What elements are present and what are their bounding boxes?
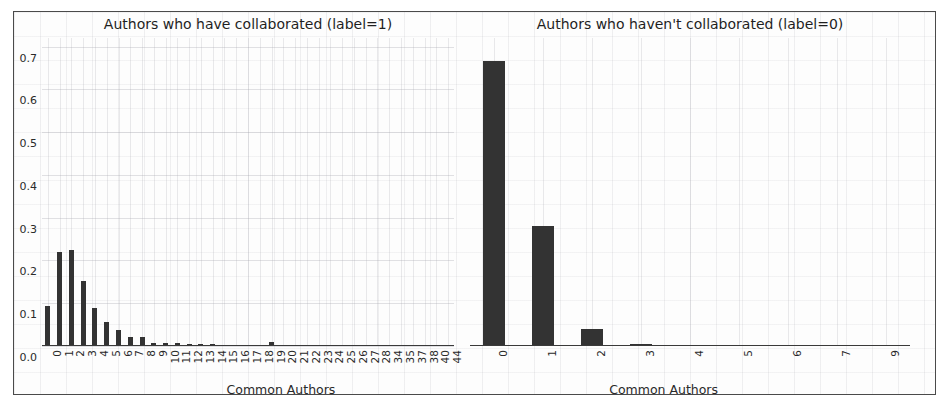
gridline-vertical xyxy=(377,38,378,346)
x-axis-tick-label: 19 xyxy=(276,350,287,363)
gridline-vertical xyxy=(739,38,740,346)
gridline-vertical xyxy=(448,38,449,346)
x-axis-tick-label: 40 xyxy=(440,350,451,363)
x-axis-tick-label: 21 xyxy=(299,350,310,363)
x-axis-tick-label: 7 xyxy=(134,350,145,357)
x-axis-tick-label: 20 xyxy=(287,350,298,363)
gridline-vertical xyxy=(413,38,414,346)
x-axis-tick-label: 13 xyxy=(205,350,216,363)
chart-title-right: Authors who haven't collaborated (label=… xyxy=(537,16,844,32)
y-axis-tick-label: 0.1 xyxy=(20,309,38,320)
gridline-vertical xyxy=(95,38,96,346)
x-axis-tick-label: 8 xyxy=(146,350,157,357)
x-axis-tick-label: 16 xyxy=(240,350,251,363)
bar xyxy=(69,250,74,346)
gridline-vertical xyxy=(788,38,789,346)
x-axis-tick-label: 3 xyxy=(645,350,656,357)
x-axis-tick-label: 27 xyxy=(370,350,381,363)
bar xyxy=(45,306,50,346)
x-axis-tick-label: 2 xyxy=(75,350,86,357)
x-axis-tick-label: 26 xyxy=(358,350,369,363)
gridline-vertical xyxy=(592,38,593,346)
bar xyxy=(532,226,554,346)
gridline-vertical xyxy=(130,38,131,346)
x-axis-tick-label: 12 xyxy=(193,350,204,363)
x-axis-tick-label: 5 xyxy=(111,350,122,357)
x-axis-line-left xyxy=(42,345,454,346)
gridline-vertical xyxy=(213,38,214,346)
gridline-vertical xyxy=(425,38,426,346)
x-axis-tick-label: 34 xyxy=(393,350,404,363)
x-axis-tick-label: 35 xyxy=(405,350,416,363)
y-axis-tick-label: 0.0 xyxy=(20,352,38,363)
x-axis-tick-label: 11 xyxy=(181,350,192,363)
x-axis-title-right: Common Authors xyxy=(609,382,718,397)
gridline-vertical xyxy=(295,38,296,346)
gridline-vertical xyxy=(48,38,49,346)
plot-area-right xyxy=(470,38,910,346)
gridline-vertical xyxy=(272,38,273,346)
x-axis-tick-label: 44 xyxy=(452,350,463,363)
x-axis-tick-label: 0 xyxy=(498,350,509,357)
x-axis-tick-label: 6 xyxy=(792,350,803,357)
gridline-vertical xyxy=(319,38,320,346)
x-axis-tick-label: 37 xyxy=(417,350,428,363)
gridline-vertical xyxy=(366,38,367,346)
plot-area-left xyxy=(42,38,454,346)
gridline-vertical xyxy=(119,38,120,346)
gridline-vertical xyxy=(401,38,402,346)
x-axis-tick-label: 22 xyxy=(311,350,322,363)
x-axis-tick-label: 6 xyxy=(123,350,134,357)
gridline-vertical xyxy=(260,38,261,346)
gridline-vertical xyxy=(342,38,343,346)
bar xyxy=(104,322,109,346)
gridline-vertical xyxy=(224,38,225,346)
x-axis-tick-label: 4 xyxy=(99,350,110,357)
gridline-vertical xyxy=(389,38,390,346)
gridline-vertical xyxy=(177,38,178,346)
gridline-vertical xyxy=(107,38,108,346)
chart-title-left: Authors who have collaborated (label=1) xyxy=(104,16,392,32)
gridline-vertical xyxy=(837,38,838,346)
bar xyxy=(57,252,62,346)
gridline-vertical xyxy=(142,38,143,346)
x-axis-tick-label: 28 xyxy=(381,350,392,363)
gridline-vertical xyxy=(690,38,691,346)
y-axis-tick-label: 0.4 xyxy=(20,180,38,191)
figure-frame: Authors who have collaborated (label=1) … xyxy=(13,11,936,395)
gridline-vertical xyxy=(307,38,308,346)
x-axis-tick-label: 5 xyxy=(743,350,754,357)
x-axis-tick-label: 1 xyxy=(64,350,75,357)
gridline-vertical xyxy=(166,38,167,346)
gridline-vertical xyxy=(248,38,249,346)
x-axis-tick-label: 25 xyxy=(346,350,357,363)
x-axis-tick-label: 9 xyxy=(158,350,169,357)
x-axis-tick-label: 4 xyxy=(694,350,705,357)
x-axis-title-left: Common Authors xyxy=(227,382,336,397)
gridline-vertical xyxy=(436,38,437,346)
gridline-vertical xyxy=(330,38,331,346)
y-axis-tick-label: 0.7 xyxy=(20,52,38,63)
x-axis-tick-label: 24 xyxy=(334,350,345,363)
x-axis-tick-label: 9 xyxy=(890,350,901,357)
x-axis-tick-label: 14 xyxy=(217,350,228,363)
gridline-vertical xyxy=(354,38,355,346)
x-axis-tick-label: 15 xyxy=(228,350,239,363)
gridline-vertical xyxy=(201,38,202,346)
gridline-vertical xyxy=(236,38,237,346)
y-axis-tick-label: 0.5 xyxy=(20,138,38,149)
gridline-horizontal xyxy=(42,346,454,347)
x-axis-tick-label: 38 xyxy=(429,350,440,363)
gridline-vertical xyxy=(283,38,284,346)
bar xyxy=(581,329,603,346)
bar xyxy=(116,330,121,346)
x-axis-tick-label: 0 xyxy=(52,350,63,357)
y-axis-tick-label: 0.6 xyxy=(20,95,38,106)
x-axis-line-right xyxy=(470,345,910,346)
gridline-vertical xyxy=(189,38,190,346)
bar xyxy=(81,281,86,346)
x-axis-tick-label: 17 xyxy=(252,350,263,363)
axes-label1: Authors who have collaborated (label=1) … xyxy=(42,38,454,346)
x-axis-tick-label: 3 xyxy=(87,350,98,357)
x-axis-tick-label: 1 xyxy=(547,350,558,357)
